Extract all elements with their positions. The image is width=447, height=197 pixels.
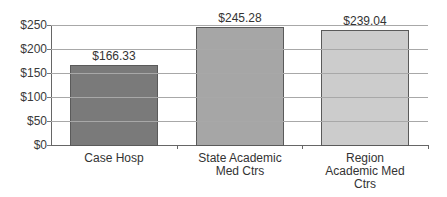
y-tick-mark xyxy=(47,25,51,26)
y-axis xyxy=(51,25,52,146)
y-tick-label: $50 xyxy=(27,115,47,127)
x-category-label: State Academic Med Ctrs xyxy=(177,152,303,178)
gridline xyxy=(51,73,428,74)
y-tick-label: $0 xyxy=(34,139,47,151)
x-tick-mark xyxy=(177,145,178,149)
bar xyxy=(321,30,409,146)
y-tick-mark xyxy=(47,145,51,146)
x-category-label: Region Academic Med Ctrs xyxy=(302,152,428,191)
bar-chart: $0$50$100$150$200$250 $166.33Case Hosp$2… xyxy=(0,0,447,197)
bar-value-label: $166.33 xyxy=(51,50,177,62)
gridline xyxy=(51,25,428,26)
y-tick-mark xyxy=(47,121,51,122)
gridline xyxy=(51,97,428,98)
y-tick-mark xyxy=(47,49,51,50)
x-tick-mark xyxy=(302,145,303,149)
x-category-label: Case Hosp xyxy=(51,152,177,165)
y-tick-mark xyxy=(47,97,51,98)
bar xyxy=(196,27,284,146)
x-tick-mark xyxy=(428,145,429,149)
y-tick-label: $200 xyxy=(20,43,47,55)
gridline xyxy=(51,49,428,50)
bar xyxy=(70,65,158,146)
gridline xyxy=(51,121,428,122)
y-tick-label: $250 xyxy=(20,19,47,31)
bar-value-label: $245.28 xyxy=(177,12,303,24)
y-tick-mark xyxy=(47,73,51,74)
y-tick-label: $100 xyxy=(20,91,47,103)
y-tick-label: $150 xyxy=(20,67,47,79)
